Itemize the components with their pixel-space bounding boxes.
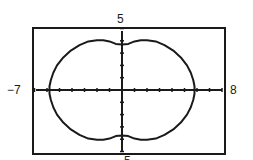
graph-window [0, 0, 253, 160]
calculator-graph: 5 −7 8 −5 [0, 0, 253, 160]
ymax-label: 5 [117, 13, 124, 25]
ymin-label: −5 [117, 155, 131, 160]
xmin-label: −7 [7, 84, 21, 96]
xmax-label: 8 [230, 84, 237, 96]
